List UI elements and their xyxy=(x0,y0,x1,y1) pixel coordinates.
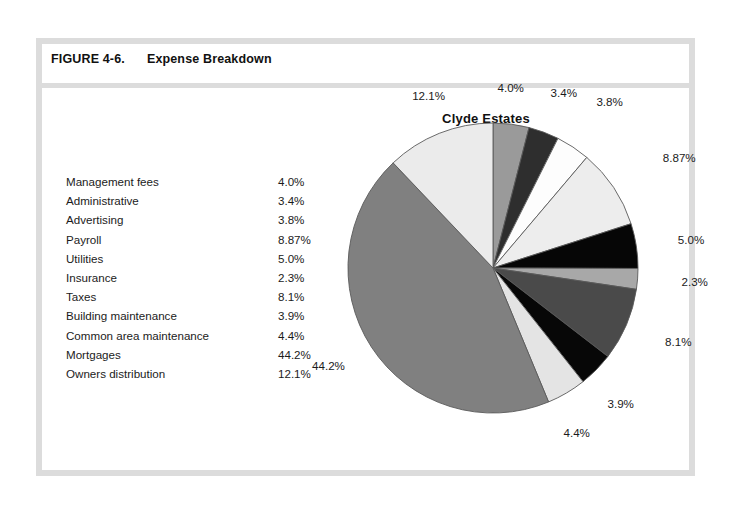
legend-row: Management fees4.0% xyxy=(65,172,340,191)
legend-row-label: Taxes xyxy=(65,287,274,306)
legend-row-label: Common area maintenance xyxy=(65,326,274,345)
expense-legend-body: Management fees4.0%Administrative3.4%Adv… xyxy=(65,172,340,383)
legend-row-label: Building maintenance xyxy=(65,306,274,325)
pie-chart-svg: 4.0%3.4%3.8%8.87%5.0%2.3%8.1%3.9%4.4%44.… xyxy=(337,101,689,461)
legend-row-label: Management fees xyxy=(65,172,274,191)
legend-row-label: Mortgages xyxy=(65,345,274,364)
figure-number: FIGURE 4-6. xyxy=(51,52,125,66)
legend-row: Taxes8.1% xyxy=(65,287,340,306)
legend-row: Advertising3.8% xyxy=(65,210,340,229)
legend-row-value: 3.8% xyxy=(274,210,340,229)
figure-caption: FIGURE 4-6.Expense Breakdown xyxy=(51,52,272,66)
pie-slice-label: 4.0% xyxy=(497,81,523,94)
legend-row: Owners distribution12.1% xyxy=(65,364,340,383)
pie-chart-area: Clyde Estates 4.0%3.4%3.8%8.87%5.0%2.3%8… xyxy=(337,101,689,461)
pie-slice-label: 2.3% xyxy=(682,275,708,288)
legend-row-value: 3.4% xyxy=(274,191,340,210)
figure-caption-text: Expense Breakdown xyxy=(147,52,272,66)
legend-row-value: 5.0% xyxy=(274,249,340,268)
pie-slice-label: 44.2% xyxy=(312,359,345,372)
expense-legend-table: Management fees4.0%Administrative3.4%Adv… xyxy=(65,172,340,383)
pie-slice-label: 4.4% xyxy=(563,426,589,439)
legend-row-label: Utilities xyxy=(65,249,274,268)
legend-row-value: 4.4% xyxy=(274,326,340,345)
legend-row-value: 8.87% xyxy=(274,230,340,249)
legend-row: Utilities5.0% xyxy=(65,249,340,268)
legend-row: Mortgages44.2% xyxy=(65,345,340,364)
legend-row-value: 4.0% xyxy=(274,172,340,191)
pie-slice-label: 12.1% xyxy=(412,89,445,102)
pie-slice-label: 8.1% xyxy=(665,335,691,348)
pie-slice-label: 3.9% xyxy=(607,397,633,410)
pie-slice-label: 8.87% xyxy=(663,151,696,164)
legend-row-value: 8.1% xyxy=(274,287,340,306)
legend-row-value: 2.3% xyxy=(274,268,340,287)
legend-row-label: Owners distribution xyxy=(65,364,274,383)
legend-row-label: Payroll xyxy=(65,230,274,249)
legend-row: Administrative3.4% xyxy=(65,191,340,210)
figure-body: Management fees4.0%Administrative3.4%Adv… xyxy=(42,93,689,470)
legend-row-label: Administrative xyxy=(65,191,274,210)
legend-row-label: Advertising xyxy=(65,210,274,229)
legend-row: Payroll8.87% xyxy=(65,230,340,249)
pie-slice-label: 3.4% xyxy=(551,86,577,99)
legend-row: Building maintenance3.9% xyxy=(65,306,340,325)
pie-slice-group xyxy=(348,123,638,413)
legend-row: Common area maintenance4.4% xyxy=(65,326,340,345)
legend-row: Insurance2.3% xyxy=(65,268,340,287)
figure-page: FIGURE 4-6.Expense Breakdown Management … xyxy=(0,0,731,510)
legend-row-value: 3.9% xyxy=(274,306,340,325)
pie-slice-label: 5.0% xyxy=(678,233,704,246)
pie-slice-label: 3.8% xyxy=(596,95,622,108)
legend-row-label: Insurance xyxy=(65,268,274,287)
